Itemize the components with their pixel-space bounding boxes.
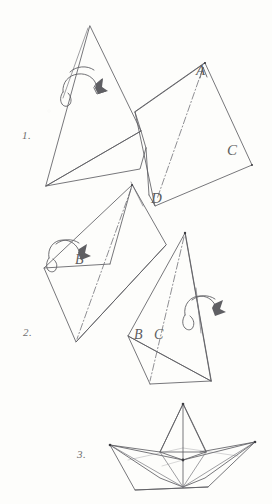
step-3-figure bbox=[109, 403, 257, 490]
vertex-label-a: A bbox=[196, 62, 205, 79]
rotation-arrow-3-icon bbox=[183, 296, 226, 330]
vertex-label-c-step2-right: C bbox=[154, 327, 163, 343]
figure-canvas: .ln{fill:none;stroke:#5f5f63;stroke-widt… bbox=[0, 0, 272, 504]
vertex-label-c: C bbox=[227, 142, 237, 159]
step1-crease-line bbox=[63, 28, 88, 98]
step1-connector-lower bbox=[146, 148, 149, 195]
vertex-label-b-step2-left: B bbox=[75, 252, 84, 268]
vertex-label-d: D bbox=[151, 190, 162, 207]
step1-fold-line-ad bbox=[157, 68, 203, 199]
step-number-3: 3. bbox=[77, 448, 86, 460]
vertex-label-b-step2-right: B bbox=[134, 327, 143, 343]
step-number-2: 2. bbox=[23, 326, 32, 338]
step1-right-quad bbox=[135, 62, 253, 206]
step2-axis-line bbox=[196, 288, 201, 333]
step1-connector-upper bbox=[135, 112, 141, 131]
step2-right-fold-line bbox=[150, 237, 184, 381]
step-2-figure bbox=[44, 184, 226, 384]
rotation-arrow-1-icon bbox=[61, 67, 108, 106]
step2-left-shape bbox=[44, 184, 166, 342]
drawing-sheet: .ln{fill:none;stroke:#5f5f63;stroke-widt… bbox=[0, 0, 272, 504]
step1-left-triangle bbox=[46, 26, 146, 186]
step-1-figure bbox=[46, 26, 253, 206]
step-number-1: 1. bbox=[22, 129, 31, 141]
